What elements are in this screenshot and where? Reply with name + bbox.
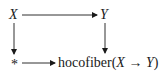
hocofiber-target: Y bbox=[146, 55, 154, 70]
node-y: Y bbox=[100, 8, 108, 22]
hocofiber-suffix: ) bbox=[154, 55, 159, 70]
hocofiber-prefix: hocofiber( bbox=[58, 55, 116, 70]
node-hocofiber: hocofiber(X → Y) bbox=[58, 56, 158, 70]
node-point: * bbox=[11, 58, 18, 72]
node-x: X bbox=[9, 8, 18, 22]
hocofiber-source: X bbox=[116, 55, 125, 70]
hocofiber-arrow: → bbox=[128, 55, 142, 70]
